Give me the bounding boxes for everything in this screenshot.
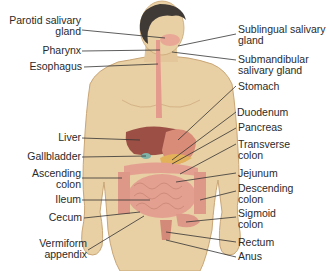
label-line: appendix [39, 249, 87, 260]
label-line: Stomach [238, 81, 279, 92]
label-vermiform-appendix: Vermiform appendix [39, 238, 87, 260]
label-line: Liver [58, 132, 81, 143]
label-parotid-salivary-gland: Parotid salivary gland [9, 15, 81, 37]
label-gallbladder: Gallbladder [27, 151, 81, 162]
label-cecum: Cecum [49, 212, 82, 223]
label-line: Rectum [238, 237, 274, 248]
label-sigmoid-colon: Sigmoid colon [238, 208, 276, 230]
label-transverse-colon: Transverse colon [238, 139, 290, 161]
label-line: colon [238, 219, 276, 230]
label-line: Pharynx [42, 45, 81, 56]
label-descending-colon: Descending colon [238, 183, 293, 205]
label-line: gland [9, 26, 81, 37]
label-jejunum: Jejunum [238, 168, 278, 179]
label-line: Duodenum [237, 107, 288, 118]
label-line: salivary gland [238, 65, 309, 76]
label-line: Cecum [49, 212, 82, 223]
rectum [160, 220, 172, 240]
label-pharynx: Pharynx [42, 45, 81, 56]
label-line: Pancreas [238, 122, 282, 133]
label-submandibular-salivary-gland: Submandibular salivary gland [238, 54, 309, 76]
label-line: Ileum [55, 194, 81, 205]
label-line: colon [238, 150, 290, 161]
label-stomach: Stomach [238, 81, 279, 92]
mouth-region [160, 34, 180, 46]
label-line: gland [238, 35, 326, 46]
label-line: Anus [238, 251, 262, 262]
label-sublingual-salivary-gland: Sublingual salivary gland [238, 24, 326, 46]
digestive-system-diagram: Parotid salivary gland Pharynx Esophagus… [0, 0, 328, 271]
label-line: colon [32, 179, 81, 190]
label-rectum: Rectum [238, 237, 274, 248]
label-ascending-colon: Ascending colon [32, 168, 81, 190]
label-anus: Anus [238, 251, 262, 262]
label-duodenum: Duodenum [237, 107, 288, 118]
label-line: Gallbladder [27, 151, 81, 162]
label-line: Esophagus [29, 61, 82, 72]
label-ileum: Ileum [55, 194, 81, 205]
label-line: colon [238, 194, 293, 205]
label-line: Jejunum [238, 168, 278, 179]
label-liver: Liver [58, 132, 81, 143]
label-esophagus: Esophagus [29, 61, 82, 72]
label-pancreas: Pancreas [238, 122, 282, 133]
